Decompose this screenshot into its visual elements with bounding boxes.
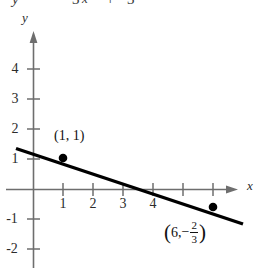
x-tick-label-4: 4 bbox=[144, 196, 162, 212]
y-tick-label-neg1: -1 bbox=[0, 211, 24, 227]
graph-figure: y 3 x + 3 bbox=[0, 0, 255, 273]
point-label-2-fraction: 23 bbox=[190, 220, 198, 245]
x-axis-arrowhead bbox=[226, 185, 238, 193]
x-axis-label: x bbox=[247, 178, 253, 194]
y-tick-label-3: 3 bbox=[6, 91, 24, 107]
x-tick-label-2: 2 bbox=[84, 196, 102, 212]
fraction-numerator: 2 bbox=[190, 220, 198, 232]
y-tick-label-4: 4 bbox=[6, 61, 24, 77]
y-tick-label-2: 2 bbox=[6, 121, 24, 137]
y-tick-label-1: 1 bbox=[6, 151, 24, 167]
y-axis-arrowhead bbox=[30, 31, 38, 43]
data-point-1 bbox=[59, 154, 68, 163]
coordinate-plane bbox=[0, 0, 255, 273]
y-axis-label: y bbox=[22, 10, 28, 26]
fraction-denominator: 3 bbox=[190, 234, 198, 246]
x-tick-label-3: 3 bbox=[114, 196, 132, 212]
data-point-2 bbox=[209, 203, 218, 212]
x-tick-label-1: 1 bbox=[54, 196, 72, 212]
point-label-1: (1, 1) bbox=[54, 128, 84, 144]
point-label-2: (6,−23) bbox=[164, 221, 206, 246]
point-label-2-x-value: 6, bbox=[171, 225, 182, 240]
point-label-2-minus-sign: − bbox=[182, 224, 190, 240]
y-tick-label-neg2: -2 bbox=[0, 241, 24, 257]
plotted-line bbox=[16, 149, 243, 225]
